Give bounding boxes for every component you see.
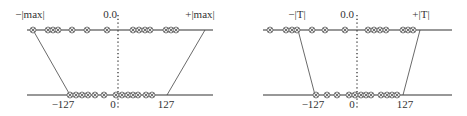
quantized-value-marker-icon	[143, 92, 149, 98]
label-bottom-center: 0	[349, 98, 355, 110]
label-top-left: −|max|	[15, 8, 45, 20]
quantized-value-marker-icon	[92, 92, 98, 98]
quantized-value-marker-icon	[365, 27, 371, 33]
label-top-right: +|T|	[412, 8, 429, 20]
label-bottom-right: 127	[158, 98, 175, 110]
label-bottom-left: −127	[52, 98, 75, 110]
quantized-value-marker-icon	[410, 27, 416, 33]
label-bottom-left: −127	[302, 98, 325, 110]
quantized-value-marker-icon	[267, 27, 273, 33]
quantized-value-marker-icon	[130, 27, 136, 33]
label-top-center: 0.0	[103, 8, 117, 20]
mapping-line	[298, 30, 315, 95]
quantized-value-marker-icon	[371, 27, 377, 33]
quantized-value-marker-icon	[368, 92, 374, 98]
quantized-value-marker-icon	[383, 27, 389, 33]
quantized-value-marker-icon	[378, 92, 384, 98]
quantization-diagram: −|max|0.0+|max|−1270127 −|T|0.0+|T|−1270…	[0, 0, 467, 116]
label-bottom-center: 0	[110, 98, 116, 110]
quantized-value-marker-icon	[149, 92, 155, 98]
quantized-value-marker-icon	[173, 27, 179, 33]
quantized-value-marker-icon	[69, 27, 75, 33]
quantized-value-marker-icon	[119, 92, 125, 98]
quantized-value-marker-icon	[334, 92, 340, 98]
quantized-value-marker-icon	[283, 27, 289, 33]
quantized-value-marker-icon	[147, 27, 153, 33]
mapping-line	[403, 30, 420, 95]
panel-threshold-scaling: −|T|0.0+|T|−1270127	[263, 8, 452, 110]
mapping-line	[33, 30, 70, 95]
quantized-value-marker-icon	[101, 92, 107, 98]
quantized-value-marker-icon	[30, 27, 36, 33]
label-bottom-right: 127	[397, 98, 414, 110]
quantized-value-marker-icon	[135, 92, 141, 98]
quantized-value-marker-icon	[309, 27, 315, 33]
label-top-center: 0.0	[340, 8, 354, 20]
quantized-value-marker-icon	[324, 92, 330, 98]
panel-max-scaling: −|max|0.0+|max|−1270127	[15, 8, 215, 110]
quantized-value-marker-icon	[79, 92, 85, 98]
mapping-line	[167, 30, 205, 95]
quantized-value-marker-icon	[55, 27, 61, 33]
quantized-value-marker-icon	[136, 27, 142, 33]
quantized-value-marker-icon	[342, 27, 348, 33]
quantized-value-marker-icon	[104, 27, 110, 33]
label-top-right: +|max|	[185, 8, 215, 20]
quantized-value-marker-icon	[294, 27, 300, 33]
label-top-left: −|T|	[288, 8, 305, 20]
quantized-value-marker-icon	[322, 27, 328, 33]
quantized-value-marker-icon	[377, 27, 383, 33]
quantized-value-marker-icon	[84, 27, 90, 33]
quantized-value-marker-icon	[85, 92, 91, 98]
